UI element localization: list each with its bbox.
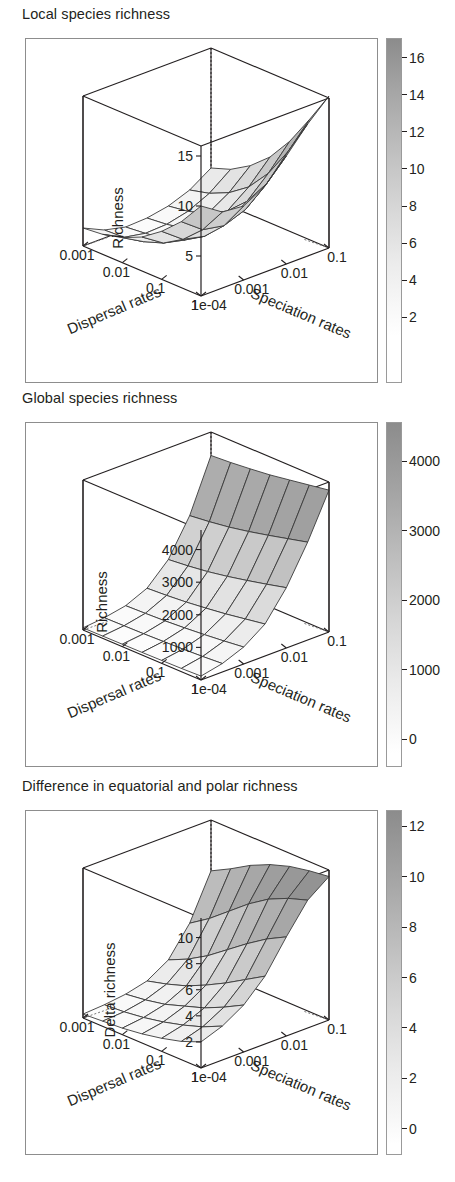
- colorbar: 024681012: [386, 810, 402, 1155]
- x-axis-tick-label: 0.01: [103, 264, 130, 280]
- panel-title: Difference in equatorial and polar richn…: [22, 778, 298, 794]
- colorbar-tick-label: 8: [409, 919, 417, 935]
- surface-plot: 1000200030004000Richness10.10.010.001Dis…: [25, 422, 378, 767]
- y-axis-tick: [281, 1032, 286, 1036]
- axis-edge: [83, 820, 211, 868]
- x-axis-tick: [162, 1047, 167, 1051]
- z-axis-title: Richness: [109, 187, 126, 249]
- colorbar-tick-label: 4: [409, 1020, 417, 1036]
- z-axis-tick-label: 15: [177, 148, 193, 164]
- panel-title: Global species richness: [22, 390, 177, 406]
- colorbar-tick-label: 12: [409, 124, 425, 140]
- colorbar-tick-line: [402, 977, 407, 978]
- colorbar-tick-label: 4: [409, 272, 417, 288]
- surface-cell: [268, 120, 309, 174]
- surface-plot: 246810Delta richness10.10.010.001Dispers…: [25, 810, 378, 1155]
- colorbar-tick-line: [402, 317, 407, 318]
- x-axis-tick-label: 0.01: [103, 1036, 130, 1052]
- z-axis-tick-label: 4: [185, 1008, 193, 1024]
- colorbar-tick-label: 0: [409, 731, 417, 747]
- colorbar: 01000200030004000: [386, 422, 402, 767]
- colorbar-tick-line: [402, 927, 407, 928]
- y-axis-tick: [281, 644, 286, 648]
- x-axis-tick-label: 0.001: [59, 247, 94, 263]
- x-axis-tick: [162, 275, 167, 279]
- colorbar-tick-line: [402, 826, 407, 827]
- colorbar-tick: 14: [402, 87, 425, 103]
- axis-edge: [83, 868, 201, 918]
- panel-local-species-richness: Local species richness 51015Richness10.1…: [0, 6, 455, 388]
- z-axis-tick-label: 6: [185, 982, 193, 998]
- y-axis-tick-label: 0.01: [281, 1037, 308, 1053]
- y-axis-tick-label: 0.1: [327, 1021, 347, 1037]
- y-axis-tick: [239, 276, 244, 280]
- axis-edge: [201, 98, 329, 146]
- colorbar-tick-label: 16: [409, 50, 425, 66]
- figure-root: Local species richness 51015Richness10.1…: [0, 0, 455, 1182]
- z-axis-tick-label: 8: [185, 956, 193, 972]
- colorbar-tick: 16: [402, 50, 425, 66]
- x-axis-tick: [122, 259, 127, 263]
- colorbar-tick-line: [402, 876, 407, 877]
- y-axis-title: Speciation rates: [248, 668, 354, 726]
- surface-mesh: [83, 865, 329, 1042]
- axis-edge: [211, 820, 329, 870]
- y-axis-tick-label: 0.1: [327, 249, 347, 265]
- axis-edge: [83, 432, 211, 480]
- colorbar-tick: 2000: [402, 592, 440, 608]
- colorbar-tick-label: 8: [409, 198, 417, 214]
- colorbar-tick-line: [402, 168, 407, 169]
- colorbar-tick-label: 2: [409, 1070, 417, 1086]
- x-axis-title: Dispersal rates: [64, 667, 163, 722]
- y-axis-title: Speciation rates: [248, 284, 354, 342]
- colorbar-gradient: [387, 39, 401, 336]
- z-axis-tick-label: 4000: [162, 542, 193, 558]
- y-axis-tick-label: 0.01: [281, 649, 308, 665]
- colorbar-tick: 8: [402, 919, 417, 935]
- colorbar-tick-line: [402, 461, 407, 462]
- colorbar-tick-label: 6: [409, 970, 417, 986]
- x-axis-tick-label: 0.001: [59, 1019, 94, 1035]
- colorbar-tick: 10: [402, 161, 425, 177]
- colorbar-tick: 1000: [402, 662, 440, 678]
- colorbar: 246810121416: [386, 38, 402, 383]
- x-axis-title: Dispersal rates: [64, 283, 163, 338]
- surface-mesh: [83, 455, 329, 676]
- colorbar-tick-line: [402, 669, 407, 670]
- z-axis-title: Delta richness: [101, 942, 118, 1037]
- z-axis-tick-label: 5: [185, 248, 193, 264]
- z-axis-title: Richness: [93, 571, 110, 633]
- surface-plot: 51015Richness10.10.010.001Dispersal rate…: [25, 38, 378, 383]
- colorbar-tick-line: [402, 739, 407, 740]
- axis-guide-dashed: [83, 237, 109, 246]
- x-axis-title: Dispersal rates: [64, 1055, 163, 1110]
- y-axis-tick: [239, 1048, 244, 1052]
- colorbar-tick-line: [402, 206, 407, 207]
- colorbar-tick-label: 12: [409, 818, 425, 834]
- y-axis-tick: [281, 260, 286, 264]
- x-axis-tick-label: 0.01: [103, 648, 130, 664]
- y-axis-title: Speciation rates: [248, 1056, 354, 1114]
- colorbar-tick-label: 3000: [409, 523, 440, 539]
- y-axis-tick-label: 1e-04: [191, 1069, 227, 1085]
- colorbar-tick-label: 0: [409, 1121, 417, 1137]
- panel-title: Local species richness: [22, 6, 170, 22]
- colorbar-tick: 8: [402, 198, 417, 214]
- y-axis-tick-label: 0.1: [327, 633, 347, 649]
- y-axis-tick-label: 1e-04: [191, 681, 227, 697]
- colorbar-tick-label: 2000: [409, 592, 440, 608]
- x-axis-tick-label: 0.001: [59, 631, 94, 647]
- colorbar-tick-label: 6: [409, 235, 417, 251]
- y-axis-tick: [239, 660, 244, 664]
- colorbar-tick-label: 10: [409, 161, 425, 177]
- z-axis-tick-label: 10: [177, 198, 193, 214]
- panel-global-species-richness: Global species richness 1000200030004000…: [0, 390, 455, 772]
- axis-edge: [83, 96, 201, 146]
- axis-guide-dashed: [303, 1011, 329, 1020]
- colorbar-tick: 4000: [402, 453, 440, 469]
- colorbar-gradient: [387, 423, 401, 753]
- colorbar-tick-line: [402, 1078, 407, 1079]
- colorbar-tick: 4: [402, 1020, 417, 1036]
- colorbar-tick: 12: [402, 818, 425, 834]
- colorbar-tick: 12: [402, 124, 425, 140]
